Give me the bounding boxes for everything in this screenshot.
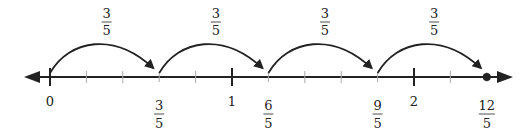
jump-label-denominator: 5 [212,23,220,38]
jump-arc-1 [50,44,153,73]
jump-label-numerator: 3 [430,6,438,21]
left-arrow-icon [24,71,40,83]
jump-label-numerator: 3 [102,6,110,21]
fraction-label-denominator: 5 [373,116,381,131]
jump-arc-3 [268,44,371,73]
fraction-label-numerator: 6 [264,98,272,113]
jump-label-denominator: 5 [102,23,110,38]
number-line-diagram: 35353535 012356595125 [0,0,531,138]
whole-number-label: 1 [228,94,236,109]
jump-arcs: 35353535 [50,6,481,73]
fraction-label-numerator: 3 [155,98,163,113]
axis-labels: 012356595125 [46,94,495,131]
jump-arc-4 [378,44,481,73]
right-arrow-icon [497,71,513,83]
fraction-label-denominator: 5 [264,116,272,131]
whole-number-label: 2 [410,94,418,109]
fraction-label-denominator: 5 [483,116,491,131]
jump-label-denominator: 5 [430,23,438,38]
jump-label-numerator: 3 [212,6,220,21]
fraction-label-denominator: 5 [155,116,163,131]
whole-number-label: 0 [46,94,54,109]
jump-arc-2 [159,44,262,73]
fraction-label-numerator: 12 [479,98,496,113]
jump-label-denominator: 5 [321,23,329,38]
jump-label-numerator: 3 [321,6,329,21]
endpoint-dot [483,73,491,81]
fraction-label-numerator: 9 [373,98,381,113]
